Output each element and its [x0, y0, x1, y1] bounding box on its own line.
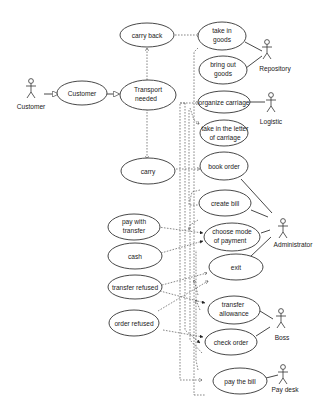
actor-label: Administrator: [274, 241, 314, 248]
svg-text:take in: take in: [212, 27, 232, 34]
actor-label: Repository: [259, 65, 291, 73]
actor-label: Pay desk: [271, 386, 299, 394]
svg-text:book order: book order: [208, 163, 240, 170]
usecase-transport-needed[interactable]: Transport needed: [120, 80, 176, 110]
svg-text:organize carriage: organize carriage: [199, 99, 250, 107]
usecase-carry[interactable]: carry: [121, 158, 175, 184]
stick-figure-icon: [26, 79, 36, 98]
svg-text:pay with: pay with: [122, 218, 147, 226]
svg-text:carry: carry: [141, 168, 156, 176]
stick-figure-icon: [278, 365, 288, 384]
svg-text:needed: needed: [135, 95, 157, 102]
actor-label: Boss: [275, 334, 290, 341]
usecase-customer[interactable]: Customer: [57, 81, 107, 105]
svg-text:order refused: order refused: [114, 320, 154, 327]
usecase-exit[interactable]: exit: [209, 254, 263, 280]
usecase-check-order[interactable]: check order: [205, 329, 257, 355]
usecase-organize-carriage[interactable]: organize carriage: [198, 91, 250, 113]
svg-text:cash: cash: [128, 253, 142, 260]
stick-figure-icon: [266, 93, 276, 112]
usecase-choose-mode-of-payment[interactable]: choose mode of payment: [204, 223, 260, 251]
usecase-carry-back[interactable]: carry back: [120, 23, 174, 47]
actor-repository[interactable]: Repository: [259, 40, 291, 73]
svg-text:bring out: bring out: [210, 61, 236, 69]
actor-customer[interactable]: Customer: [17, 79, 46, 110]
usecase-take-in-letter[interactable]: take in the letter of carriage: [200, 120, 249, 146]
svg-text:of payment: of payment: [214, 237, 247, 245]
usecase-pay-the-bill[interactable]: pay the bill: [213, 368, 267, 394]
svg-text:of carriage: of carriage: [209, 134, 240, 142]
svg-text:allowance: allowance: [219, 310, 249, 317]
stick-figure-icon: [262, 40, 272, 59]
actor-label: Logistic: [260, 118, 283, 126]
svg-text:goods: goods: [214, 70, 233, 78]
use-case-diagram: Customer Repository Logistic Admini: [0, 0, 321, 407]
svg-text:Customer: Customer: [68, 90, 97, 97]
svg-text:transfer: transfer: [222, 301, 245, 308]
usecase-cash[interactable]: cash: [108, 243, 162, 269]
svg-text:exit: exit: [231, 264, 241, 271]
actor-administrator[interactable]: Administrator: [274, 219, 314, 248]
usecase-order-refused[interactable]: order refused: [109, 310, 159, 336]
stick-figure-icon: [278, 219, 288, 238]
usecase-take-in-goods[interactable]: take in goods: [198, 22, 246, 50]
actor-logistic[interactable]: Logistic: [260, 93, 283, 126]
svg-text:goods: goods: [213, 36, 232, 44]
usecase-pay-with-transfer[interactable]: pay with transfer: [108, 214, 160, 240]
actor-paydesk[interactable]: Pay desk: [271, 365, 299, 394]
svg-text:pay the bill: pay the bill: [224, 378, 256, 386]
usecase-bring-out-goods[interactable]: bring out goods: [199, 56, 247, 84]
svg-text:Transport: Transport: [134, 86, 162, 94]
actor-label: Customer: [17, 103, 46, 110]
svg-text:transfer: transfer: [123, 227, 146, 234]
svg-text:carry back: carry back: [132, 32, 163, 40]
svg-text:choose mode: choose mode: [212, 228, 252, 235]
usecase-transfer-refused[interactable]: transfer refused: [108, 275, 162, 299]
usecase-create-bill[interactable]: create bill: [199, 190, 251, 216]
usecase-book-order[interactable]: book order: [200, 152, 248, 180]
svg-text:check order: check order: [214, 339, 249, 346]
svg-text:transfer refused: transfer refused: [112, 284, 159, 291]
svg-text:take in the letter: take in the letter: [202, 125, 250, 132]
usecase-transfer-allowance[interactable]: transfer allowance: [208, 296, 260, 324]
actor-boss[interactable]: Boss: [275, 309, 290, 341]
svg-text:create bill: create bill: [211, 200, 240, 207]
stick-figure-icon: [276, 309, 286, 328]
